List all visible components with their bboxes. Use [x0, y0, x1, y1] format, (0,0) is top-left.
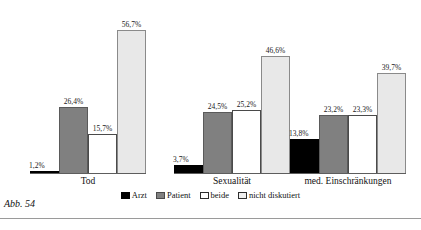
chart-bar-fill	[261, 56, 290, 174]
chart-value-label: 23,3%	[353, 105, 372, 114]
chart-bar-fill	[203, 112, 232, 174]
chart-bar-row: 1,2%26,4%15,7%56,7%	[30, 0, 146, 174]
chart-bar-beide: 15,7%	[88, 0, 117, 174]
chart-value-label: 56,7%	[122, 20, 141, 29]
chart-group: 3,7%24,5%25,2%46,6%	[174, 0, 290, 174]
chart-bar-nicht: 56,7%	[117, 0, 146, 174]
legend-swatch-icon	[156, 192, 165, 199]
chart-bar-beide: 25,2%	[232, 0, 261, 174]
legend-swatch-icon	[121, 192, 130, 199]
chart-group: 1,2%26,4%15,7%56,7%	[30, 0, 146, 174]
legend-swatch-icon	[238, 192, 247, 199]
chart-value-label: 46,6%	[266, 46, 285, 55]
chart-bar-beide: 23,3%	[348, 0, 377, 174]
chart-value-label: 13,8%	[289, 129, 308, 138]
chart-bar-nicht: 46,6%	[261, 0, 290, 174]
chart-plot-area: 1,2%26,4%15,7%56,7%3,7%24,5%25,2%46,6%13…	[0, 0, 421, 174]
chart-value-label: 1,2%	[29, 161, 45, 170]
chart-bar-fill	[348, 115, 377, 174]
chart-bar-patient: 23,2%	[319, 0, 348, 174]
chart-bar-fill	[88, 134, 117, 174]
legend-item-nicht: nicht diskutiert	[238, 190, 300, 200]
chart-bar-fill	[290, 139, 319, 174]
chart-bar-patient: 26,4%	[59, 0, 88, 174]
chart-baseline	[174, 173, 290, 174]
chart-bar-fill	[59, 107, 88, 174]
legend-swatch-icon	[200, 192, 209, 199]
chart-bar-nicht: 39,7%	[377, 0, 406, 174]
chart-bar-patient: 24,5%	[203, 0, 232, 174]
legend-item-beide: beide	[200, 190, 229, 200]
chart-bar-arzt: 13,8%	[290, 0, 319, 174]
chart-bar-arzt: 1,2%	[30, 0, 59, 174]
chart-bar-fill	[232, 110, 261, 174]
chart-group: 13,8%23,2%23,3%39,7%	[290, 0, 406, 174]
chart-bar-arzt: 3,7%	[174, 0, 203, 174]
legend-item-label: nicht diskutiert	[249, 190, 300, 200]
chart-category-label: Sexualität	[174, 176, 290, 186]
chart-bar-fill	[377, 73, 406, 174]
chart-baseline	[30, 173, 146, 174]
figure-bottom-rule	[0, 218, 421, 219]
chart-bar-row: 13,8%23,2%23,3%39,7%	[290, 0, 406, 174]
chart-baseline	[290, 173, 406, 174]
legend-item-label: Patient	[167, 190, 191, 200]
chart-value-label: 25,2%	[237, 100, 256, 109]
chart-value-label: 26,4%	[64, 97, 83, 106]
chart-value-label: 3,7%	[173, 155, 189, 164]
chart-bar-row: 3,7%24,5%25,2%46,6%	[174, 0, 290, 174]
legend-item-label: beide	[211, 190, 229, 200]
figure-container: 1,2%26,4%15,7%56,7%3,7%24,5%25,2%46,6%13…	[0, 0, 421, 230]
chart-value-label: 15,7%	[93, 124, 112, 133]
figure-caption: Abb. 54	[4, 198, 35, 209]
chart-bar-fill	[117, 30, 146, 174]
chart-legend: ArztPatientbeidenicht diskutiert	[0, 190, 421, 200]
legend-item-patient: Patient	[156, 190, 191, 200]
chart-value-label: 24,5%	[208, 102, 227, 111]
chart-bar-fill	[319, 115, 348, 174]
chart-value-label: 23,2%	[324, 105, 343, 114]
legend-item-label: Arzt	[132, 190, 147, 200]
chart-category-label: med. Einschränkungen	[290, 176, 406, 186]
legend-item-arzt: Arzt	[121, 190, 147, 200]
chart-value-label: 39,7%	[382, 63, 401, 72]
chart-category-label: Tod	[30, 176, 146, 186]
